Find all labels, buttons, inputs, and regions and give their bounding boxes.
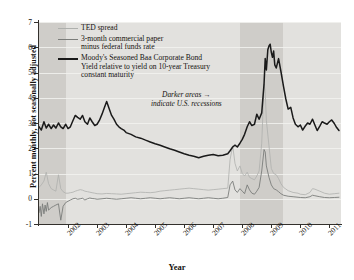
y-tick-label: -1 — [14, 220, 32, 229]
chart-figure: -101234567 20022003200420052006200720082… — [0, 0, 354, 280]
legend-label: 3-month commercial paper minus federal f… — [81, 35, 163, 52]
legend-label: Moody's Seasoned Baa Corporate Bond Yiel… — [81, 54, 210, 80]
legend-item: Moody's Seasoned Baa Corporate Bond Yiel… — [58, 54, 210, 80]
y-axis-title: Percent monthly, not seasonally adjusted — [29, 22, 38, 212]
legend-item: 3-month commercial paper minus federal f… — [58, 35, 210, 52]
legend-swatch-ted — [58, 24, 78, 33]
x-axis-title: Year — [0, 262, 354, 272]
y-tick — [34, 224, 38, 225]
right-arrow-icon: → — [203, 90, 210, 99]
legend-item: TED spread — [58, 24, 210, 33]
annotation-line-1: Darker areas → — [151, 90, 222, 99]
chart-legend: TED spread3-month commercial paper minus… — [58, 24, 210, 82]
recession-annotation: Darker areas → indicate U.S. recessions — [151, 90, 222, 108]
legend-swatch-baa — [58, 54, 78, 63]
series-line — [39, 150, 339, 221]
legend-swatch-cp — [58, 35, 78, 44]
annotation-line-2: indicate U.S. recessions — [151, 99, 222, 108]
legend-label: TED spread — [81, 24, 117, 33]
y-axis-line — [38, 20, 39, 226]
